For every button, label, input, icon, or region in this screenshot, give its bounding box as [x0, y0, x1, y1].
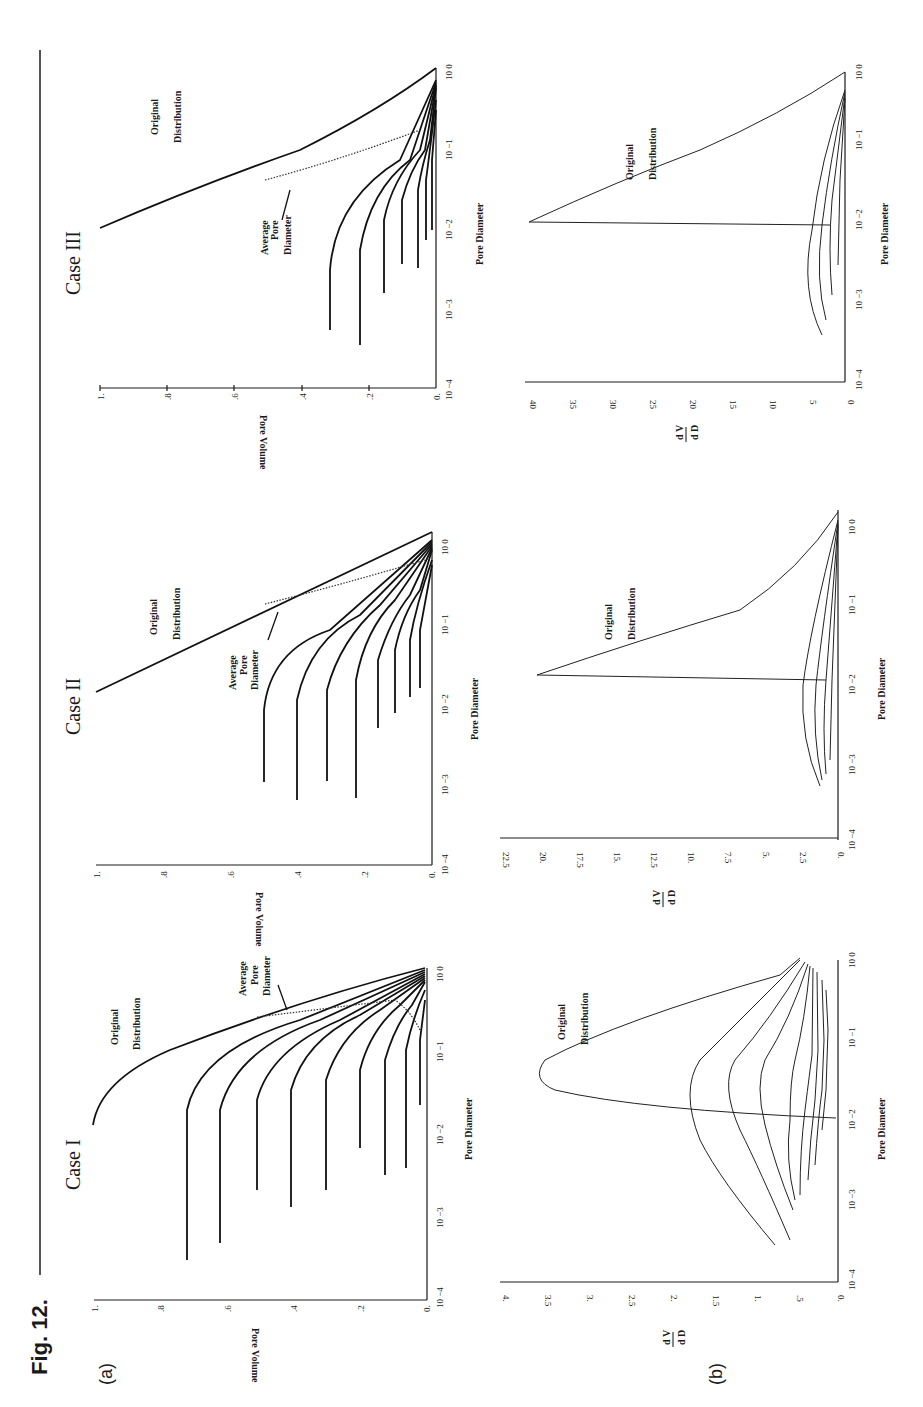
svg-text:10 −4: 10 −4	[435, 1287, 445, 1308]
svg-text:40: 40	[528, 400, 538, 410]
case-label-iii: Case III	[62, 231, 84, 295]
svg-text:d D: d D	[676, 1330, 687, 1345]
svg-text:10 −1: 10 −1	[847, 594, 857, 615]
svg-text:Original: Original	[624, 144, 635, 180]
svg-text:.5: .5	[795, 1295, 805, 1302]
svg-text:0.: 0.	[432, 393, 442, 400]
svg-text:Distribution: Distribution	[131, 997, 142, 1050]
svg-text:10 −3: 10 −3	[847, 1189, 857, 1210]
svg-text:Original: Original	[148, 599, 159, 635]
svg-text:Distribution: Distribution	[647, 127, 658, 180]
svg-text:.2: .2	[356, 1305, 366, 1312]
svg-text:d D: d D	[689, 425, 700, 440]
svg-text:10 −1: 10 −1	[854, 129, 864, 150]
svg-text:Original: Original	[109, 1009, 120, 1045]
svg-text:.6: .6	[226, 871, 236, 878]
x-axis-title: Pore Diameter	[474, 202, 485, 265]
svg-text:4.: 4.	[501, 1295, 511, 1302]
svg-text:10 −1: 10 −1	[847, 1027, 857, 1048]
svg-text:10 −3: 10 −3	[435, 1207, 445, 1228]
svg-text:10 −2: 10 −2	[444, 219, 454, 240]
svg-text:.8: .8	[163, 393, 173, 400]
case-label-ii: Case II	[62, 678, 84, 735]
svg-text:10 0: 10 0	[440, 539, 450, 555]
svg-text:10 0: 10 0	[847, 952, 857, 968]
svg-text:15: 15	[728, 400, 738, 410]
y-axis-title: Pore Volume	[258, 415, 269, 470]
svg-text:20.: 20.	[538, 852, 548, 863]
svg-text:10 −1: 10 −1	[440, 614, 450, 635]
svg-text:10 −2: 10 −2	[847, 674, 857, 695]
svg-text:Distribution: Distribution	[171, 587, 182, 640]
svg-text:30: 30	[608, 400, 618, 410]
svg-text:10 −3: 10 −3	[444, 299, 454, 320]
svg-text:.4: .4	[298, 393, 308, 400]
svg-text:10 −2: 10 −2	[440, 694, 450, 715]
svg-text:2.: 2.	[669, 1295, 679, 1302]
svg-text:17.5: 17.5	[575, 852, 585, 868]
svg-text:.8: .8	[159, 871, 169, 878]
svg-text:10 0: 10 0	[435, 966, 445, 982]
svg-text:10 −3: 10 −3	[440, 774, 450, 795]
svg-text:0.: 0.	[836, 1295, 846, 1302]
svg-text:0.: 0.	[427, 871, 437, 878]
svg-text:Pore Diameter: Pore Diameter	[879, 202, 890, 265]
svg-text:10 −4: 10 −4	[854, 369, 864, 390]
svg-text:1.: 1.	[753, 1295, 763, 1302]
svg-text:Pore Diameter: Pore Diameter	[463, 1097, 474, 1160]
svg-text:10 −4: 10 −4	[440, 854, 450, 875]
svg-text:Pore: Pore	[269, 220, 280, 240]
svg-text:20: 20	[688, 400, 698, 410]
svg-text:10 0: 10 0	[444, 64, 454, 80]
svg-text:10 −4: 10 −4	[847, 1269, 857, 1290]
svg-text:.4: .4	[293, 871, 303, 878]
svg-text:3.5: 3.5	[543, 1295, 553, 1307]
svg-text:0.: 0.	[422, 1305, 432, 1312]
svg-text:Pore: Pore	[238, 655, 249, 675]
svg-text:Original: Original	[556, 1004, 567, 1040]
svg-text:.4: .4	[289, 1305, 299, 1312]
svg-text:Average: Average	[227, 655, 238, 690]
svg-text:0.: 0.	[836, 852, 846, 859]
svg-text:1.5: 1.5	[711, 1295, 721, 1307]
svg-text:1.: 1.	[96, 393, 106, 400]
svg-text:Diameter: Diameter	[282, 214, 293, 255]
svg-text:Pore Diameter: Pore Diameter	[469, 677, 480, 740]
chart-case-iii-b: 40 35 30 25 20 15 10 5 0 d V d D 10 −4 1…	[525, 64, 890, 442]
svg-text:35: 35	[568, 400, 578, 410]
svg-text:d D: d D	[666, 890, 677, 905]
panel-label-b: (b)	[706, 1363, 726, 1385]
svg-text:10 −4: 10 −4	[444, 379, 454, 400]
svg-text:Pore Diameter: Pore Diameter	[876, 1097, 887, 1160]
svg-text:Distribution: Distribution	[626, 587, 637, 640]
svg-text:10 −1: 10 −1	[444, 139, 454, 160]
case-label-i: Case I	[62, 1139, 84, 1190]
svg-text:10 −3: 10 −3	[847, 754, 857, 775]
svg-text:.2: .2	[360, 871, 370, 878]
svg-text:1.: 1.	[92, 871, 102, 878]
svg-text:.2: .2	[365, 393, 375, 400]
svg-text:10 0: 10 0	[847, 519, 857, 535]
svg-text:10: 10	[768, 400, 778, 410]
svg-text:Distribution: Distribution	[579, 992, 590, 1045]
svg-text:d V: d V	[651, 889, 662, 905]
chart-case-i-a: 1. .8 .6 .4 .2 0. Pore Volume 10 −4 10 −…	[90, 955, 474, 1383]
svg-text:10 −2: 10 −2	[435, 1124, 445, 1145]
chart-case-ii-b: 22.5 20. 17.5 15. 12.5 10. 7.5 5. 2.5 0.…	[500, 510, 887, 907]
chart-case-ii-a: 1. .8 .6 .4 .2 0. Pore Volume 10 −4 10 −…	[92, 532, 480, 947]
svg-text:.6: .6	[223, 1305, 233, 1312]
svg-text:d V: d V	[661, 1329, 672, 1345]
svg-text:Pore Volume: Pore Volume	[254, 892, 265, 947]
svg-text:Pore Volume: Pore Volume	[250, 1328, 261, 1383]
chart-case-i-b: 4. 3.5 3. 2.5 2. 1.5 1. .5 0. d V d D 10…	[500, 952, 887, 1347]
svg-text:1.: 1.	[90, 1305, 100, 1312]
figure-page: Fig. 12. (a) (b) Case I Case II Case III…	[0, 0, 923, 1407]
svg-text:10 −2: 10 −2	[854, 209, 864, 230]
svg-text:Average: Average	[237, 961, 248, 996]
svg-text:Original: Original	[149, 99, 160, 135]
svg-text:10 0: 10 0	[854, 64, 864, 80]
svg-text:d V: d V	[674, 424, 685, 440]
svg-text:12.5: 12.5	[649, 852, 659, 868]
svg-text:Diameter: Diameter	[249, 649, 260, 690]
panel-label-a: (a)	[96, 1363, 116, 1385]
